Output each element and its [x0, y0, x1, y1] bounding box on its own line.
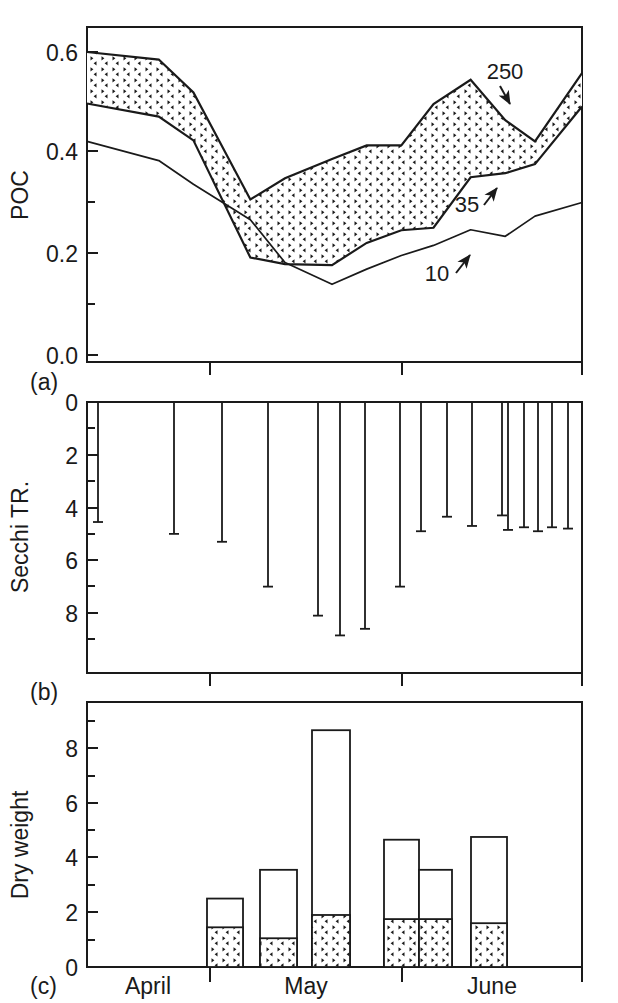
poc-label-10: 10 — [425, 261, 449, 286]
panel-c-y-minor-ticks — [87, 721, 95, 940]
month-label-may: May — [284, 973, 328, 999]
panel-c-ytick-0: 8 — [65, 736, 78, 762]
poc-arrow-250-icon — [500, 86, 510, 104]
panel-a-ytick-3: 0.0 — [46, 343, 78, 369]
panel-b: 0 2 4 6 8 Secchi TR. (b) — [7, 390, 582, 705]
figure-svg: 0.6 0.4 0.2 0.0 POC 250 35 — [0, 0, 618, 1003]
dry-weight-bar-hatched — [207, 927, 243, 967]
panel-b-ytick-4: 8 — [65, 601, 78, 627]
panel-a-ytick-2: 0.2 — [46, 241, 78, 267]
panel-c-ytick-1: 6 — [65, 791, 78, 817]
panel-a: 0.6 0.4 0.2 0.0 POC 250 35 — [7, 27, 582, 395]
secchi-drop-lines — [93, 403, 573, 635]
dry-weight-bar-hatched — [384, 919, 419, 967]
panel-b-ytick-2: 4 — [65, 496, 78, 522]
panel-b-letter: (b) — [30, 679, 58, 705]
dry-weight-bar-hatched — [419, 919, 452, 967]
panel-b-ytick-0: 0 — [65, 390, 78, 416]
panel-a-ytick-0: 0.6 — [46, 40, 78, 66]
panel-c-y-major-ticks — [87, 748, 98, 967]
panel-c-ytick-3: 2 — [65, 900, 78, 926]
poc-arrow-10-icon — [456, 255, 470, 273]
panel-b-y-minor-ticks — [87, 428, 95, 639]
panel-b-ylabel: Secchi TR. — [7, 481, 33, 593]
panel-a-y-minor-ticks — [87, 101, 95, 304]
dry-weight-bars — [207, 730, 507, 967]
panel-a-letter: (a) — [30, 369, 58, 395]
panel-c-x-ticks — [210, 967, 582, 982]
dry-weight-bar-hatched — [260, 938, 297, 967]
panel-b-x-ticks — [210, 673, 582, 686]
panel-c-ytick-2: 4 — [65, 845, 78, 871]
poc-label-250: 250 — [487, 59, 524, 84]
panel-b-ytick-1: 2 — [65, 443, 78, 469]
panel-c-ylabel: Dry weight — [7, 790, 33, 899]
poc-arrow-35-icon — [484, 188, 497, 205]
panel-a-ylabel: POC — [7, 170, 33, 220]
poc-label-35: 35 — [455, 192, 479, 217]
month-label-june: June — [467, 973, 517, 999]
panel-b-ytick-3: 6 — [65, 548, 78, 574]
panel-c-ytick-4: 0 — [65, 955, 78, 981]
panel-a-ytick-1: 0.4 — [46, 139, 78, 165]
dry-weight-bar-hatched — [471, 923, 507, 967]
figure-root: 0.6 0.4 0.2 0.0 POC 250 35 — [0, 0, 618, 1003]
month-label-april: April — [125, 973, 171, 999]
panel-a-x-ticks — [210, 362, 582, 375]
panel-c: 8 6 4 2 0 Dry weight (c) April May June — [7, 702, 582, 999]
panel-c-letter: (c) — [30, 973, 57, 999]
dry-weight-bar-hatched — [312, 915, 350, 967]
